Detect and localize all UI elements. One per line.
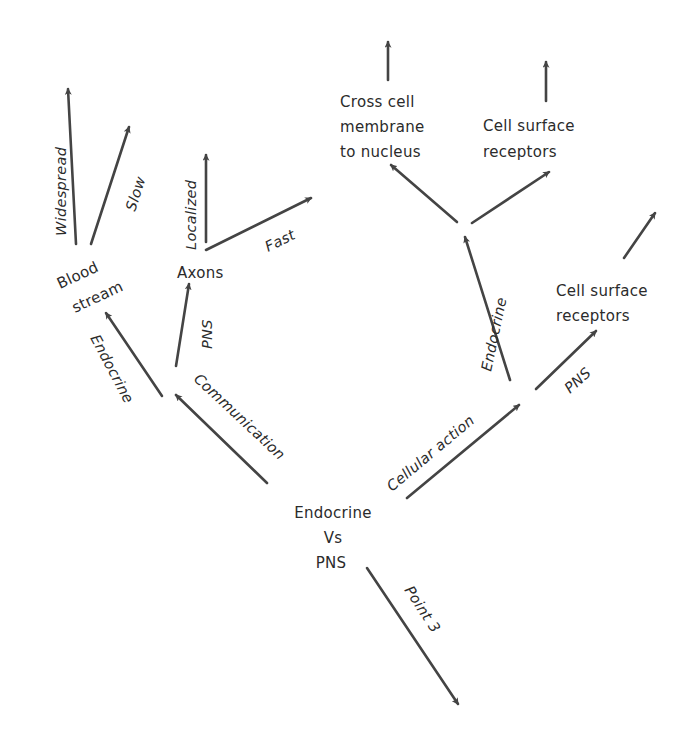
- center-line-2: Vs: [324, 529, 343, 547]
- edge-label-localized: Localized: [183, 179, 199, 250]
- edge-label-fast: Fast: [262, 226, 298, 255]
- arrow-widespread: [68, 89, 76, 244]
- edge-label-communication: Communication: [191, 370, 288, 462]
- node-cross-cell: Cross cell membrane to nucleus: [340, 93, 424, 161]
- node-cell-surface-top: Cell surface receptors: [483, 117, 575, 161]
- cross-cell-line-2: membrane: [340, 118, 424, 136]
- arrow-slow: [91, 127, 129, 244]
- blood-stream-line-1: Blood: [54, 258, 101, 293]
- node-axons: Axons: [177, 264, 224, 282]
- node-cell-surface-right: Cell surface receptors: [556, 282, 648, 325]
- edge-label-slow: Slow: [123, 175, 149, 213]
- cell-surface-top-line-2: receptors: [483, 143, 557, 161]
- node-blood-stream: Blood stream: [54, 258, 126, 317]
- mind-map-canvas: Endocrine Vs PNS Communication Endocrine…: [0, 0, 698, 746]
- edge-label-widespread: Widespread: [53, 146, 69, 236]
- center-line-3: PNS: [316, 554, 347, 572]
- cell-surface-right-line-2: receptors: [556, 307, 630, 325]
- edge-label-pns-left: PNS: [199, 319, 215, 349]
- arrow-cell-surface-right-out: [624, 213, 655, 258]
- arrow-cross-cell: [391, 165, 457, 222]
- arrow-fast: [206, 198, 311, 250]
- center-line-1: Endocrine: [294, 504, 372, 522]
- center-node: Endocrine Vs PNS: [294, 504, 372, 572]
- edge-label-cellular-action: Cellular action: [384, 412, 478, 494]
- cross-cell-line-3: to nucleus: [340, 143, 421, 161]
- cell-surface-right-line-1: Cell surface: [556, 282, 648, 300]
- edge-label-endocrine-left: Endocrine: [87, 332, 136, 406]
- cross-cell-line-1: Cross cell: [340, 93, 415, 111]
- cell-surface-top-line-1: Cell surface: [483, 117, 575, 135]
- arrow-pns-left: [176, 284, 189, 366]
- edge-label-pns-right: PNS: [561, 364, 594, 396]
- arrow-cell-surface-top: [472, 172, 549, 223]
